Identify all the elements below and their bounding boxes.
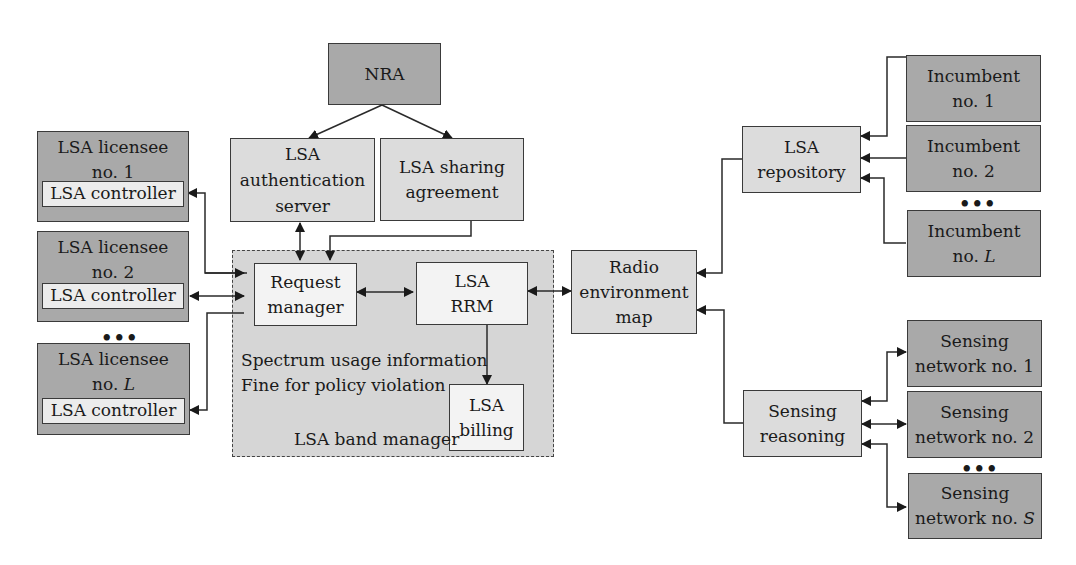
rrm-line-1: LSA [454,269,489,294]
repo-line-2: repository [757,160,845,185]
incumbent-ellipsis: ••• [959,199,997,209]
sensing-network-1-node[interactable]: Sensing network no. 1 [907,320,1042,387]
sn-2-num: network no. 2 [915,425,1034,450]
lsa-controller-l[interactable]: LSA controller [42,398,185,424]
request-manager-node[interactable]: Request manager [254,263,357,326]
controller-1-label: LSA controller [50,183,176,203]
sensing-reasoning-node[interactable]: Sensing reasoning [743,390,862,457]
incumbent-l-node[interactable]: Incumbent no. L [907,210,1041,277]
auth-line-2: authentication [240,167,365,193]
licensee-l-title: LSA licensee [58,347,169,372]
lsa-repository-node[interactable]: LSA repository [742,126,861,193]
rm-line-1: Request [270,270,340,295]
sr-line-1: Sensing [768,399,837,424]
sharing-line-2: agreement [405,180,498,205]
billing-line-2: billing [459,418,513,443]
rem-line-3: map [615,305,652,330]
lsa-licensee-1-node[interactable]: LSA licensee no. 1 [37,131,189,222]
repo-line-1: LSA [784,135,819,160]
licensee-l-num: no. L [92,372,135,397]
lsa-controller-2[interactable]: LSA controller [42,283,184,309]
licensee-ellipsis: ••• [101,333,139,343]
incumbent-l-title: Incumbent [928,219,1021,244]
sensing-network-2-node[interactable]: Sensing network no. 2 [907,391,1042,458]
incumbent-1-title: Incumbent [927,64,1020,89]
lsa-controller-1[interactable]: LSA controller [42,181,184,207]
rem-line-2: environment [579,280,688,305]
lsa-band-manager-label: LSA band manager [294,427,459,451]
rrm-line-2: RRM [450,294,493,319]
controller-l-label: LSA controller [51,400,177,420]
licensee-2-num: no. 2 [92,260,135,285]
billing-line-1: LSA [469,393,504,418]
nra-label: NRA [365,62,405,87]
lsa-authentication-server-node[interactable]: LSA authentication server [230,138,375,222]
controller-2-label: LSA controller [50,285,176,305]
sharing-line-1: LSA sharing [399,155,505,180]
lsa-sharing-agreement-node[interactable]: LSA sharing agreement [380,138,524,221]
lsa-billing-node[interactable]: LSA billing [449,384,524,451]
licensee-2-title: LSA licensee [58,235,169,260]
sn-s-title: Sensing [941,481,1010,506]
auth-line-1: LSA [285,141,320,167]
fine-policy-note: Fine for policy violation [241,373,446,397]
radio-environment-map-node[interactable]: Radio environment map [571,250,697,334]
auth-line-3: server [275,193,330,219]
sn-2-title: Sensing [940,400,1009,425]
incumbent-l-num: no. L [953,244,996,269]
incumbent-1-num: no. 1 [952,89,995,114]
licensee-1-title: LSA licensee [58,135,169,160]
nra-node[interactable]: NRA [328,43,441,105]
incumbent-2-node[interactable]: Incumbent no. 2 [906,125,1041,192]
incumbent-1-node[interactable]: Incumbent no. 1 [906,55,1041,122]
sr-line-2: reasoning [760,424,846,449]
sn-s-num: network no. S [915,506,1035,531]
spectrum-usage-note: Spectrum usage information [241,348,487,372]
lsa-rrm-node[interactable]: LSA RRM [416,262,528,325]
rem-line-1: Radio [609,255,659,280]
sensing-network-s-node[interactable]: Sensing network no. S [908,473,1042,539]
incumbent-2-num: no. 2 [952,159,995,184]
sn-1-title: Sensing [940,329,1009,354]
rm-line-2: manager [267,295,343,320]
sn-1-num: network no. 1 [915,354,1034,379]
incumbent-2-title: Incumbent [927,134,1020,159]
